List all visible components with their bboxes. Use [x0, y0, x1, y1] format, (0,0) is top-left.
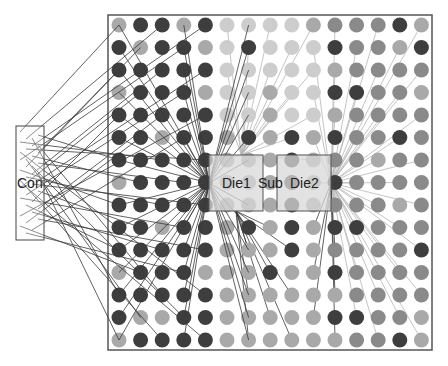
- solder-ball: [133, 288, 148, 303]
- solder-ball: [414, 243, 429, 258]
- solder-ball: [392, 63, 407, 78]
- solder-ball: [198, 310, 213, 325]
- solder-ball: [306, 265, 321, 280]
- solder-ball: [155, 85, 170, 100]
- connector-label: Con: [17, 175, 43, 191]
- solder-ball: [392, 18, 407, 33]
- solder-ball: [133, 333, 148, 348]
- solder-ball: [263, 333, 278, 348]
- solder-ball: [392, 108, 407, 123]
- die2-label: Die2: [290, 175, 319, 191]
- solder-ball: [306, 18, 321, 33]
- solder-ball: [414, 175, 429, 190]
- solder-ball: [155, 40, 170, 55]
- solder-ball: [263, 153, 278, 168]
- solder-ball: [284, 40, 299, 55]
- solder-ball: [414, 40, 429, 55]
- solder-ball: [328, 85, 343, 100]
- solder-ball: [155, 220, 170, 235]
- solder-ball: [263, 18, 278, 33]
- solder-ball: [349, 108, 364, 123]
- solder-ball: [263, 310, 278, 325]
- solder-ball: [198, 85, 213, 100]
- solder-ball: [349, 198, 364, 213]
- wire: [38, 135, 119, 160]
- solder-ball: [263, 85, 278, 100]
- solder-ball: [328, 243, 343, 258]
- solder-ball: [371, 40, 386, 55]
- solder-ball: [414, 130, 429, 145]
- solder-ball: [371, 198, 386, 213]
- solder-ball: [220, 310, 235, 325]
- solder-ball: [349, 130, 364, 145]
- solder-ball: [306, 63, 321, 78]
- solder-ball: [414, 333, 429, 348]
- solder-ball: [328, 108, 343, 123]
- solder-ball: [328, 310, 343, 325]
- solder-ball: [414, 85, 429, 100]
- substrate-label: Sub: [258, 175, 283, 191]
- solder-ball: [349, 175, 364, 190]
- solder-ball: [220, 265, 235, 280]
- solder-ball: [328, 40, 343, 55]
- solder-ball: [349, 85, 364, 100]
- solder-ball: [284, 310, 299, 325]
- solder-ball: [220, 63, 235, 78]
- solder-ball: [414, 198, 429, 213]
- solder-ball: [284, 63, 299, 78]
- solder-ball: [371, 108, 386, 123]
- wire: [119, 115, 209, 183]
- solder-ball: [392, 175, 407, 190]
- solder-ball: [328, 265, 343, 280]
- solder-ball: [263, 63, 278, 78]
- solder-ball: [414, 153, 429, 168]
- solder-ball: [371, 333, 386, 348]
- solder-ball: [392, 288, 407, 303]
- solder-ball: [263, 243, 278, 258]
- solder-ball: [371, 63, 386, 78]
- solder-ball: [328, 63, 343, 78]
- solder-ball: [220, 40, 235, 55]
- solder-ball: [392, 198, 407, 213]
- die1-label: Die1: [222, 175, 251, 191]
- solder-ball: [306, 310, 321, 325]
- solder-ball: [284, 333, 299, 348]
- solder-ball: [349, 63, 364, 78]
- solder-ball: [349, 18, 364, 33]
- solder-ball: [414, 63, 429, 78]
- solder-ball: [155, 310, 170, 325]
- solder-ball: [284, 265, 299, 280]
- solder-ball: [133, 18, 148, 33]
- solder-ball: [328, 18, 343, 33]
- solder-ball: [284, 85, 299, 100]
- solder-ball: [349, 265, 364, 280]
- solder-ball: [263, 198, 278, 213]
- solder-ball: [328, 220, 343, 235]
- solder-ball: [371, 153, 386, 168]
- solder-ball: [284, 130, 299, 145]
- solder-ball: [263, 265, 278, 280]
- solder-ball: [349, 333, 364, 348]
- solder-ball: [306, 333, 321, 348]
- solder-ball: [284, 18, 299, 33]
- solder-ball: [263, 40, 278, 55]
- solder-ball: [371, 175, 386, 190]
- solder-ball: [263, 108, 278, 123]
- solder-ball: [263, 288, 278, 303]
- solder-ball: [220, 333, 235, 348]
- solder-ball: [392, 310, 407, 325]
- solder-ball: [220, 85, 235, 100]
- solder-ball: [371, 310, 386, 325]
- solder-ball: [392, 153, 407, 168]
- solder-ball: [371, 265, 386, 280]
- solder-ball: [284, 288, 299, 303]
- solder-ball: [392, 243, 407, 258]
- package-diagram: Con Die1 Sub Die2: [0, 0, 448, 366]
- solder-ball: [263, 220, 278, 235]
- solder-ball: [306, 130, 321, 145]
- solder-ball: [392, 333, 407, 348]
- solder-ball: [349, 220, 364, 235]
- wire: [38, 173, 119, 340]
- solder-ball: [220, 18, 235, 33]
- solder-ball: [155, 130, 170, 145]
